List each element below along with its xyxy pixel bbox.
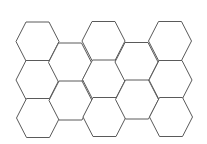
hexagon-layer — [16, 22, 193, 138]
hexagon-cell — [149, 61, 192, 100]
hexagon-cell — [149, 22, 192, 61]
hexagon-cell — [150, 98, 193, 137]
hexagon-grid-diagram — [0, 0, 207, 144]
